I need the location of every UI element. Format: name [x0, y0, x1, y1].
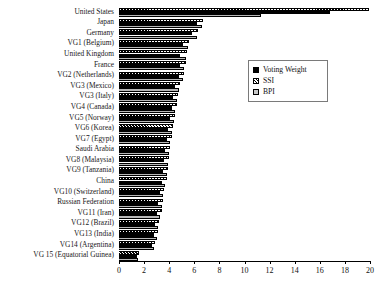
category-label: Japan	[97, 18, 114, 26]
bar-group	[119, 81, 370, 92]
x-tick-label: 2	[134, 266, 154, 275]
category-label: China	[96, 177, 114, 185]
category-label: VG3 (Italy)	[79, 92, 114, 100]
x-tick-label: 14	[285, 266, 305, 275]
bar-group	[119, 49, 370, 60]
bar-chart: United StatesJapanGermanyVG1 (Belgium)Un…	[0, 0, 382, 290]
bar-group	[119, 229, 370, 240]
x-tick	[169, 261, 170, 264]
x-tick-label: 18	[335, 266, 355, 275]
bar-group	[119, 176, 370, 187]
bar-group	[119, 102, 370, 113]
x-tick	[144, 261, 145, 264]
category-label: Germany	[87, 29, 115, 37]
category-label: VG3 (Mexico)	[70, 82, 114, 90]
x-tick	[245, 261, 246, 264]
x-tick	[370, 261, 371, 264]
x-tick-label: 20	[360, 266, 380, 275]
category-label: Saudi Arabia	[76, 145, 114, 153]
x-tick	[320, 261, 321, 264]
legend-item-voting-weight: Voting Weight	[253, 65, 323, 75]
category-label: VG9 (Tanzania)	[66, 166, 114, 174]
bar-group	[119, 60, 370, 71]
bar-group	[119, 208, 370, 219]
category-label: VG1 (Belgium)	[67, 39, 114, 47]
x-tick-label: 0	[109, 266, 129, 275]
category-label: VG5 (Norway)	[69, 114, 114, 122]
category-label: VG10 (Switzerland)	[54, 188, 114, 196]
x-tick	[219, 261, 220, 264]
category-label: United Kingdom	[64, 50, 114, 58]
chart-legend: Voting Weight SSI BPI	[248, 60, 328, 102]
bar-group	[119, 250, 370, 261]
x-tick	[345, 261, 346, 264]
y-axis-category-labels: United StatesJapanGermanyVG1 (Belgium)Un…	[0, 7, 117, 261]
bar-group	[119, 187, 370, 198]
bar-group	[119, 240, 370, 251]
bar-group	[119, 113, 370, 124]
x-tick	[119, 261, 120, 264]
filled-square-icon	[253, 67, 259, 73]
bar-group	[119, 198, 370, 209]
legend-item-bpi: BPI	[253, 87, 323, 97]
plot-area	[119, 7, 370, 261]
hatched-square-icon	[253, 78, 259, 84]
x-tick-label: 12	[260, 266, 280, 275]
bar-group	[119, 71, 370, 82]
category-label: VG4 (Canada)	[71, 103, 114, 111]
category-label: VG11 (Iran)	[78, 209, 114, 217]
x-tick	[295, 261, 296, 264]
bar-group	[119, 123, 370, 134]
legend-label: BPI	[263, 88, 275, 96]
bar-group	[119, 155, 370, 166]
x-tick-label: 8	[209, 266, 229, 275]
bar-group	[119, 219, 370, 230]
x-tick-label: 4	[159, 266, 179, 275]
legend-item-ssi: SSI	[253, 76, 323, 86]
category-label: VG 15 (Equatorial Guinea)	[33, 251, 114, 259]
x-tick-label: 16	[310, 266, 330, 275]
x-tick-label: 10	[235, 266, 255, 275]
bar-group	[119, 7, 370, 18]
bar-group	[119, 92, 370, 103]
category-label: Russian Federation	[57, 198, 114, 206]
bar-group	[119, 166, 370, 177]
bar-group	[119, 39, 370, 50]
bar-group	[119, 28, 370, 39]
legend-label: Voting Weight	[263, 66, 307, 74]
category-label: VG14 (Argentina)	[60, 241, 114, 249]
category-label: VG8 (Malaysia)	[66, 156, 114, 164]
category-label: VG2 (Netherlands)	[57, 71, 114, 79]
category-label: VG12 (Brazil)	[71, 219, 114, 227]
x-tick	[270, 261, 271, 264]
category-label: VG6 (Korea)	[75, 124, 114, 132]
category-label: United States	[74, 8, 114, 16]
bar-group	[119, 145, 370, 156]
legend-label: SSI	[263, 77, 274, 85]
category-label: VG13 (India)	[74, 230, 114, 238]
x-tick-label: 6	[184, 266, 204, 275]
category-label: France	[94, 61, 114, 69]
bar-group	[119, 134, 370, 145]
bar-group	[119, 18, 370, 29]
light-square-icon	[253, 89, 259, 95]
x-tick	[194, 261, 195, 264]
category-label: VG7 (Egypt)	[75, 135, 114, 143]
